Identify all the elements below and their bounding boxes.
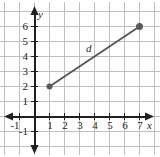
tick-label-y-4: 4 [14,51,28,62]
tick-label-y-5: 5 [14,36,28,47]
segment-label-d: d [86,43,92,54]
tick-label-x-1: 1 [43,120,57,131]
tick-label-y-3: 3 [14,66,28,77]
tick-label-y-2: 2 [14,81,28,92]
y-axis-arrow-down-icon [31,145,39,154]
tick-label-x-5: 5 [103,120,117,131]
segment-endpoint-start [47,84,53,90]
tick-label-x-7: 7 [133,120,147,131]
tick-label-x-2: 2 [58,120,72,131]
tick-label-x-neg1: -1 [5,120,25,131]
tick-label-x-4: 4 [88,120,102,131]
segment-endpoint-end [136,23,143,30]
y-axis-label: y [38,9,43,20]
x-axis-label: x [147,120,152,131]
tick-label-y-1: 1 [14,96,28,107]
tick-label-x-3: 3 [73,120,87,131]
tick-label-x-6: 6 [118,120,132,131]
coordinate-plane-figure: 6 5 4 3 2 1 -1 -1 1 2 3 4 5 6 7 y x d [0,0,160,157]
tick-label-y-6: 6 [14,21,28,32]
